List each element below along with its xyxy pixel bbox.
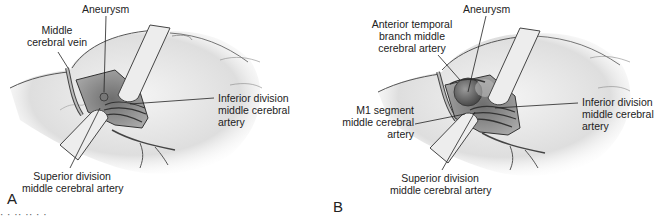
label-superior-division-b: Superior division middle cerebral artery [390, 172, 490, 196]
label-middle-cerebral-vein: Middle cerebral vein [26, 24, 88, 48]
panel-letter-a: A [7, 190, 17, 207]
panel-letter-b: B [333, 198, 343, 215]
label-aneurysm-b: Aneurysm [463, 3, 510, 15]
label-superior-division: Superior division middle cerebral artery [22, 170, 122, 194]
label-anterior-temporal-branch: Anterior temporal branch middle cerebral… [366, 18, 458, 54]
label-inferior-division-b: Inferior division middle cerebral artery [582, 96, 654, 132]
label-m1-segment: M1 segment middle cerebral artery [338, 104, 414, 140]
figure-caption-fragment: · · ·· ·· · · [0, 209, 47, 216]
panel-b: Aneurysm Anterior temporal branch middle… [330, 0, 659, 216]
label-aneurysm: Aneurysm [82, 3, 129, 15]
label-inferior-division: Inferior division middle cerebral artery [218, 92, 290, 128]
panel-a: Aneurysm Middle cerebral vein Inferior d… [0, 0, 330, 216]
